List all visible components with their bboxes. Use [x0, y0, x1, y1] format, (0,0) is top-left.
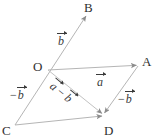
point-label-O: O: [33, 60, 42, 73]
vector-b-glyph-left: b: [18, 88, 24, 101]
vector-b-glyph-right: b: [126, 92, 132, 105]
point-label-C: C: [2, 124, 11, 137]
line-O-to-A-vector-a: [48, 65, 137, 70]
point-label-D: D: [104, 124, 113, 137]
line-C-to-D: [15, 116, 102, 125]
vector-label-minus-b-left: −b: [10, 88, 24, 101]
minus-sign-right: −: [118, 92, 125, 106]
vector-parallelogram-figure: B O A C D b a −b −b a−b: [0, 0, 154, 140]
point-label-B: B: [84, 1, 93, 14]
point-label-A: A: [142, 55, 151, 68]
vector-label-b-upper: b: [58, 34, 64, 47]
vector-b-glyph: b: [58, 34, 64, 47]
line-C-to-B: [15, 16, 86, 125]
vector-label-a: a: [97, 75, 103, 88]
minus-sign-left: −: [10, 88, 17, 102]
figure-canvas: [0, 0, 154, 140]
vector-a-glyph: a: [97, 75, 103, 88]
vector-label-minus-b-right: −b: [118, 92, 132, 105]
